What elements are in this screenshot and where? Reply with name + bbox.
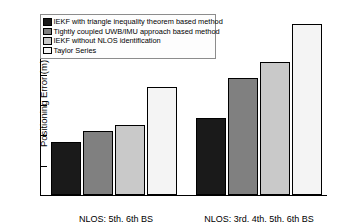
bar-group2-series2: [228, 78, 258, 195]
legend-label-1: Tightly coupled UWB/IMU approach based m…: [54, 28, 220, 36]
x-tick-label-group1: NLOS: 5th, 6th BS: [36, 214, 196, 222]
bar-group2-series3: [260, 62, 290, 195]
bar-group2-series1: [196, 118, 226, 195]
bar-group2-series4: [292, 24, 322, 195]
legend-swatch-3: [43, 47, 52, 55]
bar-chart-figure: 0.6 0.5 0.4 0.3 0.2 0.1 0 Positioning Er…: [0, 0, 339, 222]
legend-item-2: IEKF without NLOS identification: [43, 37, 213, 46]
legend-item-3: Taylor Series: [43, 46, 213, 55]
bar-group1-series2: [83, 131, 113, 195]
legend-label-0: IEKF with triangle inequality theorem ba…: [54, 18, 223, 26]
bar-group1-series4: [147, 87, 177, 195]
legend-swatch-0: [43, 18, 52, 26]
legend-item-1: Tightly coupled UWB/IMU approach based m…: [43, 27, 213, 36]
legend-item-0: IEKF with triangle inequality theorem ba…: [43, 17, 213, 26]
bar-group1-series1: [51, 142, 81, 195]
legend-swatch-1: [43, 28, 52, 36]
bar-group1-series3: [115, 125, 145, 195]
legend-swatch-2: [43, 37, 52, 45]
legend: IEKF with triangle inequality theorem ba…: [40, 14, 216, 59]
x-tick-label-group2: NLOS: 3rd, 4th, 5th, 6th BS: [179, 214, 339, 222]
legend-label-2: IEKF without NLOS identification: [54, 37, 161, 45]
legend-label-3: Taylor Series: [54, 47, 97, 55]
